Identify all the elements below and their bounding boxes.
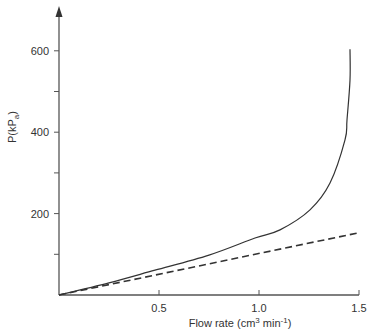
y-axis-arrow-icon xyxy=(56,6,63,17)
dashed-linear-line xyxy=(59,233,357,295)
y-axis-label: P(kPa) xyxy=(6,111,21,143)
y-axis-ticks: 200400600 xyxy=(31,45,59,255)
pressure-flow-chart: 200400600 0.51.01.5 Flow rate (cm3 min-1… xyxy=(0,0,372,335)
x-tick-label: 1.0 xyxy=(251,302,266,314)
y-tick-label: 600 xyxy=(31,45,49,57)
x-tick-label: 0.5 xyxy=(151,302,166,314)
y-tick-label: 200 xyxy=(31,208,49,220)
solid-pressure-curve xyxy=(59,49,350,295)
x-axis-label: Flow rate (cm3 min-1) xyxy=(189,316,292,329)
y-tick-label: 400 xyxy=(31,126,49,138)
x-tick-label: 1.5 xyxy=(351,302,366,314)
x-axis-ticks: 0.51.01.5 xyxy=(151,290,366,314)
